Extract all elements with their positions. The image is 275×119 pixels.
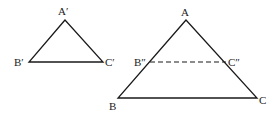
label-c: C (259, 95, 266, 106)
triangle-a-prime-b-prime-c-prime (29, 20, 103, 62)
label-a: A (181, 7, 189, 18)
label-a-prime: A′ (58, 6, 68, 17)
label-b-double-prime: B″ (134, 57, 146, 68)
label-b-prime: B′ (14, 57, 24, 68)
label-b: B (109, 101, 116, 112)
label-c-prime: C′ (105, 57, 115, 68)
label-c-double-prime: C″ (228, 57, 240, 68)
